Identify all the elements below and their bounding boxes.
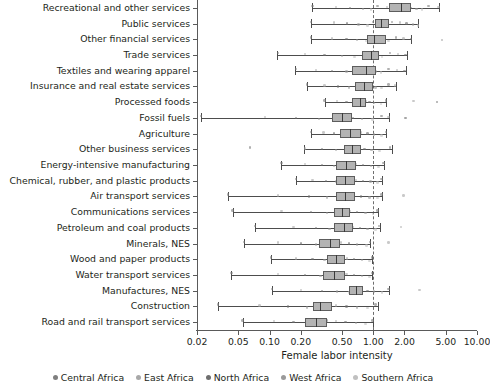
data-point <box>412 23 414 25</box>
data-point <box>369 180 371 182</box>
data-point <box>359 227 361 229</box>
median-line <box>334 271 335 280</box>
boxplot-row <box>197 110 477 126</box>
y-axis-category-label: Insurance and real estate services <box>30 82 190 91</box>
x-axis-tick <box>373 331 374 335</box>
median-line <box>366 66 367 75</box>
data-point <box>231 209 233 211</box>
data-point <box>405 22 407 24</box>
data-point <box>341 55 343 57</box>
data-point <box>380 193 382 195</box>
median-line <box>330 239 331 248</box>
data-point <box>371 256 373 258</box>
boxplot-row <box>197 204 477 220</box>
median-line <box>352 145 353 154</box>
legend-label: Central Africa <box>61 372 124 383</box>
y-axis-category-label: Petroleum and coal products <box>57 223 190 232</box>
y-axis-category-label: Other business services <box>79 145 190 154</box>
data-point <box>368 260 370 262</box>
data-point <box>364 212 366 214</box>
data-point <box>304 147 306 149</box>
legend-item[interactable]: West Africa <box>281 372 341 383</box>
y-axis-category-label: Textiles and wearing apparel <box>57 66 190 75</box>
data-point <box>402 37 404 39</box>
legend-label: West Africa <box>289 372 341 383</box>
y-axis-category-label: Minerals, NES <box>126 239 190 248</box>
whisker-high <box>332 306 378 307</box>
data-point <box>380 87 382 89</box>
data-point <box>373 102 375 104</box>
data-point <box>374 303 376 305</box>
data-point <box>412 100 414 102</box>
data-point <box>361 259 363 261</box>
y-axis-category-label: Fossil fuels <box>139 113 190 122</box>
data-point <box>373 133 375 135</box>
data-point <box>378 150 380 152</box>
data-point <box>366 132 368 134</box>
whisker-low <box>243 322 305 323</box>
data-point <box>376 209 378 211</box>
box-iqr <box>352 66 376 75</box>
data-point <box>345 305 347 307</box>
y-axis-category-label: Manufactures, NES <box>102 286 190 295</box>
whisker-low <box>255 228 334 229</box>
boxplot-row <box>197 251 477 267</box>
legend-marker-icon <box>53 375 58 380</box>
y-axis-category-label: Trade services <box>123 50 190 59</box>
legend-item[interactable]: Southern Africa <box>353 372 433 383</box>
data-point <box>380 115 382 117</box>
whisker-cap-high <box>406 66 407 75</box>
x-axis-tick <box>342 331 343 335</box>
whisker-low <box>271 259 327 260</box>
data-point <box>427 5 429 7</box>
median-line <box>345 176 346 185</box>
data-point <box>355 322 357 324</box>
data-point <box>323 84 325 86</box>
y-axis-category-label: Wood and paper products <box>70 255 190 264</box>
legend-item[interactable]: Central Africa <box>53 372 124 383</box>
data-point <box>395 36 397 38</box>
data-point <box>361 118 363 120</box>
data-point <box>380 103 382 105</box>
data-point <box>300 242 302 244</box>
data-point <box>319 275 321 277</box>
data-point <box>306 83 308 85</box>
data-point <box>370 165 372 167</box>
legend-marker-icon <box>353 375 358 380</box>
data-point <box>348 242 350 244</box>
x-axis-tick-label: 0.10 <box>259 337 280 346</box>
y-axis-category-label: Energy-intensive manufacturing <box>41 160 190 169</box>
boxplot-row <box>197 78 477 94</box>
legend-label: East Africa <box>144 372 194 383</box>
data-point <box>385 99 387 101</box>
data-point <box>404 54 406 56</box>
x-axis-tick-label: 1.00 <box>363 337 384 346</box>
whisker-low <box>233 212 335 213</box>
data-point <box>277 194 279 196</box>
data-point <box>328 228 330 230</box>
whisker-cap-high <box>380 223 381 232</box>
data-point <box>402 194 404 196</box>
data-point <box>287 305 289 307</box>
data-point <box>321 290 323 292</box>
boxplot-row <box>197 126 477 142</box>
whisker-low <box>311 134 340 135</box>
data-point <box>331 37 333 39</box>
boxplot-row <box>197 236 477 252</box>
data-point <box>370 149 372 151</box>
boxplot-row <box>197 63 477 79</box>
data-point <box>345 70 347 72</box>
legend-item[interactable]: North Africa <box>206 372 269 383</box>
legend-item[interactable]: East Africa <box>136 372 194 383</box>
data-point <box>315 69 317 71</box>
x-axis-tick <box>197 331 198 335</box>
plot-area: 0.020.050.100.200.501.002.005.0010.00 <box>197 0 477 330</box>
box-iqr <box>367 35 386 44</box>
data-point <box>364 323 366 325</box>
data-point <box>310 131 312 133</box>
data-point <box>387 68 389 70</box>
data-point <box>241 319 243 321</box>
data-point <box>323 259 325 261</box>
whisker-low <box>311 24 375 25</box>
boxplot-row <box>197 16 477 32</box>
